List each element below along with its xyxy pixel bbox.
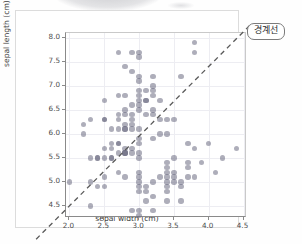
scatter-point [136,126,141,131]
scatter-point [206,141,211,146]
scatter-point [129,126,134,131]
scatter-point [136,78,141,83]
scatter-point [150,179,155,184]
scatter-point [129,208,134,213]
x-tick-label: 2.0 [55,222,81,229]
x-tick-label: 4.5 [230,222,256,229]
scatter-point [88,179,93,184]
scatter-point [109,126,114,131]
scatter-point [116,117,121,122]
scatter-point [136,54,141,59]
scatter-point [136,107,141,112]
scatter-point [136,141,141,146]
scatter-point [81,131,86,136]
y-tick-mark [62,181,65,182]
y-tick-mark [62,205,65,206]
scatter-point [116,50,121,55]
scatter-point [178,74,183,79]
scatter-point [122,112,127,117]
scatter-point [143,88,148,93]
scatter-point [102,146,107,151]
scatter-point [143,98,148,103]
scatter-point [88,155,93,160]
y-tick-mark [62,133,65,134]
scatter-point [143,198,148,203]
scatter-point [95,184,100,189]
watermark-blob [52,0,164,10]
scatter-point [234,146,239,151]
y-tick-label: 6.0 [32,129,60,136]
scatter-point [116,141,121,146]
scatter-point [109,155,114,160]
scatter-point [129,146,134,151]
x-tick-label: 4.0 [195,222,221,229]
scatter-point [129,102,134,107]
x-tick-mark [103,217,104,220]
scatter-point [164,189,169,194]
scatter-point [150,136,155,141]
scatter-point [67,179,72,184]
x-tick-mark [68,217,69,220]
scatter-point [102,155,107,160]
watermark-speck [168,2,194,9]
y-tick-label: 7.5 [32,57,60,64]
scatter-point [102,117,107,122]
y-tick-mark [62,109,65,110]
scatter-point [192,40,197,45]
scatter-point [185,141,190,146]
scatter-point [143,112,148,117]
scatter-point [185,174,190,179]
scatter-point [150,74,155,79]
gridline-horizontal [66,38,245,39]
scatter-point [129,50,134,55]
gridline-horizontal [66,134,245,135]
x-tick-label: 3.5 [160,222,186,229]
scatter-point [102,184,107,189]
scatter-point [192,50,197,55]
plot-area [65,32,246,217]
y-tick-mark [62,157,65,158]
y-tick-label: 7.0 [32,81,60,88]
scatter-point [192,146,197,151]
scatter-point [171,179,176,184]
scatter-point [150,208,155,213]
scatter-point [136,155,141,160]
scatter-point [81,122,86,127]
chart-figure-border: sepal length (cm) sepal width (cm) 4.55.… [15,10,239,228]
boundary-line-callout[interactable]: 경계선 [247,23,285,40]
scatter-point [164,117,169,122]
scatter-point [88,203,93,208]
scatter-point [157,131,162,136]
gridline-vertical [244,33,245,216]
x-tick-label: 3.0 [125,222,151,229]
scatter-point [171,155,176,160]
gridline-vertical [209,33,210,216]
scatter-point [143,189,148,194]
x-tick-mark [208,217,209,220]
y-tick-mark [62,61,65,62]
scatter-point [185,165,190,170]
scatter-point [129,150,134,155]
scatter-point [116,170,121,175]
scatter-point [192,174,197,179]
scatter-point [109,146,114,151]
gridline-vertical [174,33,175,216]
scatter-point [220,155,225,160]
scatter-point [150,93,155,98]
scatter-point [199,160,204,165]
scatter-point [213,170,218,175]
y-axis-label: sepal length (cm) [2,0,11,67]
gridline-horizontal [66,62,245,63]
scatter-point [164,131,169,136]
scatter-point [88,117,93,122]
scatter-point [102,98,107,103]
gridline-vertical [69,33,70,216]
scatter-point [136,189,141,194]
scatter-point [122,93,127,98]
scatter-point [150,112,155,117]
scatter-point [122,150,127,155]
scatter-point [95,155,100,160]
scatter-point [116,93,121,98]
scatter-point [178,184,183,189]
x-tick-mark [243,217,244,220]
